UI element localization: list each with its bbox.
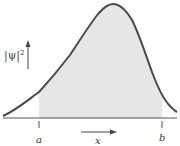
y-direction-arrow-icon [26, 40, 31, 47]
probability-density-diagram: |ψ|2 a x b [0, 0, 180, 146]
label-a: a [36, 134, 42, 145]
x-direction-arrow-icon [110, 130, 117, 135]
label-x: x [95, 135, 101, 146]
label-b: b [159, 132, 165, 143]
y-axis-label-superscript: 2 [20, 49, 24, 57]
y-axis-label: |ψ|2 [4, 49, 25, 63]
shaded-probability-region [39, 4, 162, 118]
